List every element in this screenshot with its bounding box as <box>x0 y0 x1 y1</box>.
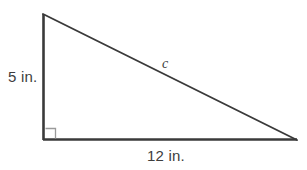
right-angle-marker-icon <box>46 129 56 139</box>
vertical-leg-label: 5 in. <box>8 69 37 84</box>
hypotenuse-label: c <box>162 57 168 71</box>
right-triangle-figure: 5 in. 12 in. c <box>0 0 307 170</box>
hypotenuse-line <box>43 14 297 140</box>
horizontal-leg-label: 12 in. <box>147 148 185 163</box>
triangle-drawing <box>0 0 307 170</box>
